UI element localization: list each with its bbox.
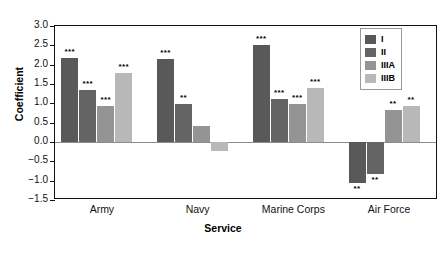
- y-tick-mark: [50, 103, 55, 104]
- bar: [97, 106, 114, 142]
- y-tick-label: −0.5: [14, 155, 48, 165]
- bar: [115, 73, 132, 142]
- y-tick-mark: [50, 45, 55, 46]
- significance-marker: ***: [149, 49, 183, 57]
- significance-marker: ***: [71, 80, 105, 88]
- significance-marker: **: [340, 185, 374, 193]
- legend-item: IIIB: [365, 72, 395, 84]
- y-tick-mark: [50, 84, 55, 85]
- y-tick-mark: [50, 26, 55, 27]
- significance-marker: ***: [244, 35, 278, 43]
- bar: [175, 104, 192, 142]
- legend-item: I: [365, 33, 395, 45]
- legend-swatch: [365, 61, 376, 70]
- y-axis-tick-labels: 3.02.52.01.51.00.50.0−0.5−1.0−1.5: [8, 0, 48, 255]
- y-tick-mark: [50, 65, 55, 66]
- bar: [289, 104, 306, 142]
- y-tick-mark: [50, 200, 55, 201]
- coefficient-bar-chart: Coefficient 3.02.52.01.51.00.50.0−0.5−1.…: [0, 0, 446, 255]
- significance-marker: **: [394, 96, 428, 104]
- legend-label: I: [381, 35, 384, 44]
- bar: [61, 58, 78, 142]
- y-tick-label: 0.5: [14, 117, 48, 127]
- significance-marker: **: [167, 94, 201, 102]
- bar: [385, 110, 402, 142]
- y-tick-mark: [50, 161, 55, 162]
- y-tick-mark: [50, 181, 55, 182]
- y-tick-mark: [50, 142, 55, 143]
- y-tick-label: 3.0: [14, 20, 48, 30]
- bar: [307, 88, 324, 142]
- y-tick-label: 1.0: [14, 97, 48, 107]
- y-tick-label: 2.0: [14, 59, 48, 69]
- bar: [271, 99, 288, 142]
- legend-swatch: [365, 48, 376, 57]
- y-tick-label: −1.0: [14, 175, 48, 185]
- bar: [193, 126, 210, 142]
- bar: [211, 142, 228, 151]
- significance-marker: ***: [298, 78, 332, 86]
- legend-swatch: [365, 74, 376, 83]
- x-tick-label: Air Force: [329, 203, 446, 215]
- bar: [403, 106, 420, 142]
- y-tick-mark: [50, 123, 55, 124]
- significance-marker: ***: [107, 63, 141, 71]
- x-axis-label: Service: [0, 222, 446, 234]
- y-tick-label: 2.5: [14, 39, 48, 49]
- legend-item: II: [365, 46, 395, 58]
- y-tick-label: 1.5: [14, 78, 48, 88]
- bar: [367, 142, 384, 174]
- legend: IIIIIIAIIIB: [360, 28, 402, 90]
- legend-label: IIIA: [381, 61, 395, 70]
- y-tick-label: 0.0: [14, 136, 48, 146]
- legend-swatch: [365, 35, 376, 44]
- legend-label: II: [381, 48, 386, 57]
- significance-marker: ***: [53, 48, 87, 56]
- significance-marker: **: [358, 176, 392, 184]
- legend-label: IIIB: [381, 74, 395, 83]
- legend-item: IIIA: [365, 59, 395, 71]
